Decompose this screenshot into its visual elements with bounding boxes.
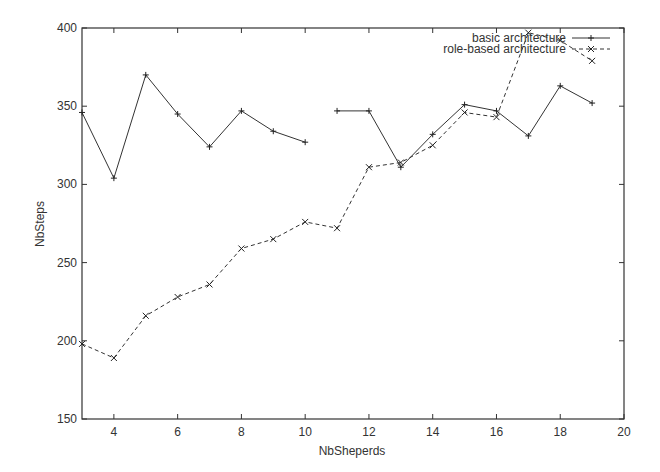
x-tick-label: 8 [238, 425, 245, 439]
legend: basic architecture role-based architectu… [443, 31, 610, 56]
y-tick-label: 300 [57, 177, 77, 191]
plot-frame [82, 28, 624, 419]
x-tick-label: 4 [111, 425, 118, 439]
plus-marker-icon [589, 100, 595, 106]
x-tick-label: 18 [554, 425, 568, 439]
cross-marker-icon [302, 219, 308, 225]
y-tick-label: 150 [57, 412, 77, 426]
x-tick-label: 12 [362, 425, 376, 439]
legend-label-role-based: role-based architecture [443, 42, 566, 56]
cross-marker-icon [589, 58, 595, 64]
plus-marker-icon [302, 139, 308, 145]
series-role-based-architecture [79, 30, 595, 361]
plus-marker-icon [79, 109, 85, 115]
series-layer [79, 30, 595, 361]
cross-marker-icon [462, 109, 468, 115]
cross-marker-icon [175, 294, 181, 300]
y-axis: 150200250300350400 [57, 21, 624, 426]
cross-marker-icon [430, 142, 436, 148]
x-tick-label: 6 [174, 425, 181, 439]
x-tick-label: 10 [298, 425, 312, 439]
plus-marker-icon [111, 175, 117, 181]
y-axis-label: NbSteps [33, 201, 47, 247]
y-tick-label: 400 [57, 21, 77, 35]
plus-marker-icon [366, 108, 372, 114]
cross-marker-icon [493, 114, 499, 120]
series-line [82, 33, 592, 358]
plot-border [82, 28, 624, 419]
x-tick-label: 16 [490, 425, 504, 439]
y-tick-label: 250 [57, 256, 77, 270]
series-line [337, 86, 592, 167]
line-chart: 150200250300350400 468101214161820 basic… [0, 0, 660, 472]
plus-marker-icon [270, 128, 276, 134]
x-tick-label: 20 [617, 425, 631, 439]
series-basic-architecture [79, 72, 595, 181]
plus-marker-icon [334, 108, 340, 114]
cross-marker-icon [270, 236, 276, 242]
cross-marker-icon [334, 225, 340, 231]
x-axis: 468101214161820 [111, 28, 631, 439]
cross-marker-icon [207, 281, 213, 287]
x-tick-label: 14 [426, 425, 440, 439]
plus-marker-icon [557, 83, 563, 89]
y-tick-label: 350 [57, 99, 77, 113]
cross-marker-icon [111, 355, 117, 361]
y-tick-label: 200 [57, 334, 77, 348]
cross-marker-icon [143, 313, 149, 319]
cross-marker-icon [238, 246, 244, 252]
plus-marker-icon [588, 35, 594, 41]
x-axis-label: NbSheperds [319, 444, 386, 458]
series-line [82, 75, 305, 178]
